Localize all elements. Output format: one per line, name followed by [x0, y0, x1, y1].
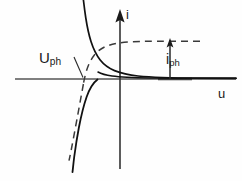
photo-current-label: iph — [166, 52, 180, 66]
photo-voltage-label: Uph — [39, 50, 61, 65]
photo-current-label-subscript: ph — [169, 57, 180, 68]
i-axis-label: i — [126, 8, 129, 21]
u-axis-label: u — [218, 87, 225, 100]
dark-characteristic-curve-upper — [83, 0, 236, 78]
uph-leader-line — [74, 57, 83, 78]
photo-voltage-label-base: U — [39, 49, 50, 66]
chart-canvas — [0, 0, 242, 181]
photodiode-iv-characteristic-figure: Uph iph i u — [0, 0, 242, 181]
photo-voltage-label-subscript: ph — [50, 56, 61, 67]
